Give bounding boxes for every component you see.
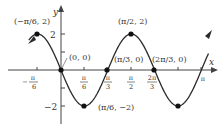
sine-graph: y x 2 −2 π6 − π6 π3 π2 2π3 π (−π/6, 2) (…: [0, 0, 224, 127]
point-2pi3: [151, 67, 156, 72]
xtick-2pi3: 2π3: [147, 74, 157, 91]
svg-text:π: π: [31, 74, 36, 82]
point-origin: [58, 67, 63, 72]
svg-text:2: 2: [129, 83, 133, 91]
label-pi2: (π/2, 2): [118, 17, 147, 26]
x-axis-arrow-icon: [211, 67, 218, 73]
curve-right-arrow-icon: [205, 30, 212, 39]
ytick-label-neg2: −2: [44, 102, 57, 112]
y-axis-arrow-icon: [58, 5, 64, 12]
xtick-pi3: π3: [104, 74, 112, 91]
svg-text:−: −: [22, 78, 27, 86]
xtick-pi: π: [201, 75, 206, 83]
origin-leader-line: [62, 58, 67, 68]
xtick-pi6: π6: [80, 74, 88, 91]
label-neg-pi6: (−π/6, 2): [14, 17, 50, 26]
x-axis-label: x: [209, 57, 214, 67]
xtick-labels: π6 − π6 π3 π2 2π3 π: [22, 74, 206, 91]
svg-text:π: π: [106, 74, 111, 82]
svg-text:π: π: [82, 74, 87, 82]
y-axis-label: y: [52, 7, 59, 17]
label-2pi3: (2π/3, 0): [152, 55, 187, 64]
xtick-neg-pi6: π6 −: [22, 74, 38, 91]
ytick-label-2: 2: [50, 30, 56, 40]
xtick-pi2: π2: [127, 74, 135, 91]
label-pi3: (π/3, 0): [114, 55, 143, 64]
point-5pi6: [175, 103, 180, 108]
label-pi6: (π/6, −2): [98, 103, 134, 112]
svg-text:3: 3: [106, 83, 110, 91]
svg-text:6: 6: [32, 83, 36, 91]
point-pi3: [104, 67, 109, 72]
point-neg-pi6: [34, 31, 39, 36]
label-origin: (0, 0): [69, 53, 91, 62]
svg-text:3: 3: [150, 83, 154, 91]
svg-text:π: π: [129, 74, 134, 82]
svg-text:6: 6: [82, 83, 86, 91]
svg-text:2π: 2π: [148, 74, 157, 82]
point-pi2: [128, 31, 133, 36]
point-pi6: [81, 103, 86, 108]
